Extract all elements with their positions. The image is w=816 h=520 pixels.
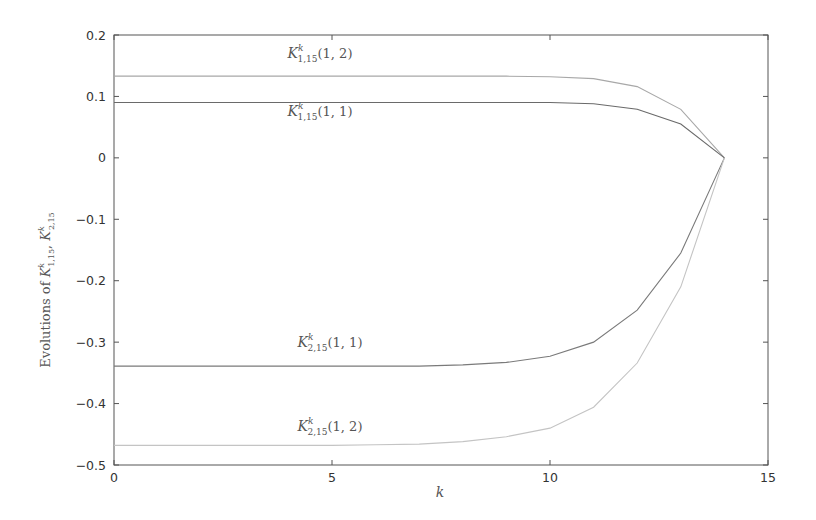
series-annotation: Kk2,15(1, 2) bbox=[297, 416, 363, 437]
plot-frame bbox=[114, 35, 768, 465]
chart: 0.20.10−0.1−0.2−0.3−0.4−0.5 051015 Kk1,1… bbox=[0, 0, 816, 520]
series-annotation: Kk2,15(1, 1) bbox=[297, 332, 363, 353]
y-tick-label: −0.1 bbox=[76, 212, 106, 227]
y-tick-label: 0 bbox=[98, 150, 106, 165]
series-line bbox=[114, 158, 724, 445]
series-annotation: Kk1,15(1, 2) bbox=[287, 43, 353, 64]
x-tick-label: 5 bbox=[328, 470, 336, 485]
y-tick-label: 0.1 bbox=[86, 89, 106, 104]
y-tick-label: −0.4 bbox=[76, 396, 106, 411]
y-tick-label: 0.2 bbox=[86, 28, 106, 43]
series-line bbox=[114, 158, 724, 366]
x-tick-label: 10 bbox=[542, 470, 558, 485]
y-axis-ticks: 0.20.10−0.1−0.2−0.3−0.4−0.5 bbox=[76, 28, 768, 473]
series-line bbox=[114, 76, 724, 158]
series-line bbox=[114, 103, 724, 158]
x-tick-label: 0 bbox=[110, 470, 118, 485]
y-tick-label: −0.5 bbox=[76, 458, 106, 473]
plot-border bbox=[114, 35, 768, 465]
svg-text:Evolutions of Kk1,15, Kk2,15: Evolutions of Kk1,15, Kk2,15 bbox=[37, 212, 56, 367]
series-lines bbox=[114, 76, 724, 445]
x-axis-label: k bbox=[436, 484, 444, 500]
y-axis-label: Evolutions of Kk1,15, Kk2,15 bbox=[37, 212, 56, 367]
series-annotation: Kk1,15(1, 1) bbox=[287, 101, 353, 122]
y-tick-label: −0.2 bbox=[76, 273, 106, 288]
x-tick-label: 15 bbox=[760, 470, 776, 485]
y-tick-label: −0.3 bbox=[76, 335, 106, 350]
